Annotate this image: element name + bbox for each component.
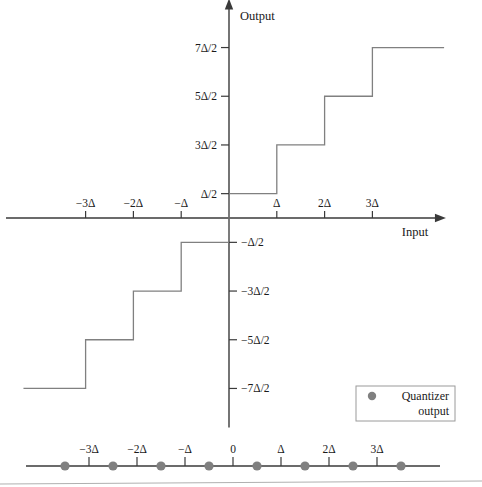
figure-canvas: −3Δ−2Δ−ΔΔ2Δ3Δ 7Δ/25Δ/23Δ/2Δ/2−Δ/2−3Δ/2−5… [0, 0, 482, 487]
number-line-tick-label: −3Δ [79, 443, 99, 455]
y-axis-arrowhead [225, 0, 233, 10]
number-line-tick-label: 2Δ [322, 443, 335, 455]
y-tick-label: 7Δ/2 [195, 42, 217, 54]
x-axis-ticks: −3Δ−2Δ−ΔΔ2Δ3Δ [76, 197, 379, 218]
quantizer-output-dot-icon [368, 392, 376, 400]
reconstruction-level-dot [108, 461, 117, 470]
reconstruction-level-dot [348, 461, 357, 470]
bottom-rule [0, 481, 482, 484]
reconstruction-level-dot [60, 461, 69, 470]
legend-label-line1: Quantizer [402, 389, 449, 403]
y-tick-label: 5Δ/2 [195, 90, 217, 102]
y-tick-label: −3Δ/2 [241, 285, 270, 297]
y-tick-label: Δ/2 [201, 188, 218, 200]
x-tick-label: −3Δ [76, 197, 96, 209]
y-tick-label: −7Δ/2 [241, 382, 270, 394]
quantizer-figure: −3Δ−2Δ−ΔΔ2Δ3Δ 7Δ/25Δ/23Δ/2Δ/2−Δ/2−3Δ/2−5… [0, 0, 482, 487]
legend-label-line2: output [418, 404, 449, 418]
x-tick-label: 3Δ [366, 197, 379, 209]
x-axis-arrowhead [435, 214, 446, 222]
x-tick-label: 2Δ [318, 197, 331, 209]
axes-group [6, 0, 446, 427]
number-line: −3Δ−2Δ−Δ0Δ2Δ3Δ [26, 443, 440, 471]
x-tick-label: Δ [273, 197, 280, 209]
reconstruction-level-dot [204, 461, 213, 470]
reconstruction-level-dot [252, 461, 261, 470]
number-line-tick-label: −2Δ [127, 443, 147, 455]
y-tick-label: −5Δ/2 [241, 334, 270, 346]
number-line-tick-label: 0 [230, 443, 236, 455]
x-tick-label: −Δ [174, 197, 188, 209]
reconstruction-level-dot [156, 461, 165, 470]
y-tick-label: 3Δ/2 [195, 139, 217, 151]
y-tick-label: −Δ/2 [241, 236, 264, 248]
number-line-tick-label: Δ [277, 443, 284, 455]
y-axis-label: Output [240, 9, 275, 23]
reconstruction-level-dot [300, 461, 309, 470]
number-line-tick-label: 3Δ [370, 443, 383, 455]
number-line-tick-label: −Δ [178, 443, 192, 455]
reconstruction-level-dot [396, 461, 405, 470]
bottom-rule-line [0, 481, 482, 484]
x-axis-label: Input [402, 225, 429, 239]
x-tick-label: −2Δ [124, 197, 144, 209]
